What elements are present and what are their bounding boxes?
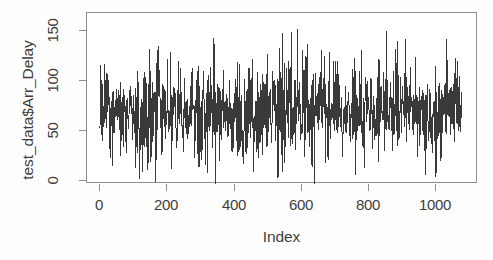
x-tick-label: 200 [131,196,201,213]
plot-frame [86,12,477,183]
y-tick-mark [79,180,86,181]
x-tick-mark [301,184,302,191]
y-tick-label: 100 [43,59,62,103]
x-tick-label: 0 [64,196,134,213]
x-tick-mark [99,184,100,191]
x-axis-label: Index [86,228,477,246]
x-tick-mark [435,184,436,191]
y-tick-mark [79,80,86,81]
y-axis-label: test_data$Arr_Delay [15,10,41,210]
y-tick-label: 0 [43,159,62,203]
y-tick-mark [79,130,86,131]
y-tick-label: 50 [43,109,62,153]
x-tick-label: 400 [199,196,269,213]
series-line-arr-delay [87,13,478,184]
x-tick-mark [234,184,235,191]
x-tick-mark [166,184,167,191]
x-tick-label: 800 [333,196,403,213]
y-tick-mark [79,30,86,31]
x-tick-mark [368,184,369,191]
x-tick-label: 1000 [400,196,470,213]
x-tick-label: 600 [266,196,336,213]
r-plot-figure: test_data$Arr_Delay 050100150 0200400600… [0,0,493,260]
y-tick-label: 150 [43,9,62,53]
